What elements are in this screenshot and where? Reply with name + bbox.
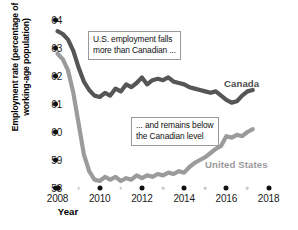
annotation-callout-us-falls: U.S. employment falls more than Canadian… (88, 31, 181, 60)
series-label-united-states: United States (205, 159, 268, 170)
annotation-callout-remains-below: ... and remains below the Canadian level (131, 117, 219, 146)
chart-figure: Employment rate (percentage of working-a… (0, 0, 298, 230)
series-label-canada: Canada (224, 78, 259, 89)
annotation-line: more than Canadian ... (93, 45, 176, 56)
annotation-line: the Canadian level (136, 131, 214, 142)
annotation-line: ... and remains below (136, 120, 214, 131)
annotation-line: U.S. employment falls (93, 34, 176, 45)
